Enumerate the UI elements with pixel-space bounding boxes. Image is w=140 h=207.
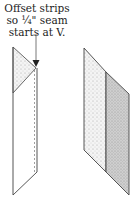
offset-triangle: [13, 47, 36, 93]
light-strip: [84, 48, 106, 172]
right-piece: [84, 48, 129, 195]
quilt-strip-diagram: [0, 0, 140, 207]
left-piece: [13, 34, 40, 195]
dark-strip: [106, 72, 129, 195]
bottom-diagonal: [13, 172, 37, 195]
